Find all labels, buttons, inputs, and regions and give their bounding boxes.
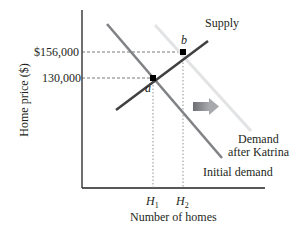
supply-label: Supply xyxy=(205,16,239,30)
demand-after-label-1: Demand xyxy=(238,132,279,146)
demand-after-katrina-line xyxy=(155,25,251,131)
initial-demand-label: Initial demand xyxy=(203,165,273,179)
point-b-label: b xyxy=(181,33,187,47)
price-low-label: 130,000 xyxy=(42,71,81,85)
point-b-marker xyxy=(180,49,186,55)
price-high-label: $156,000 xyxy=(34,45,79,59)
shift-right-arrow-icon xyxy=(193,98,219,115)
demand-after-label-2: after Katrina xyxy=(228,145,289,159)
x-axis-label: Number of homes xyxy=(130,210,217,224)
y-axis-label: Home price ($) xyxy=(17,63,32,136)
point-a-label: a xyxy=(145,81,151,95)
